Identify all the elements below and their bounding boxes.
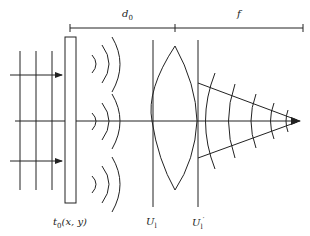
- object-transparency: [65, 37, 76, 203]
- lens-back-label: Ul′: [192, 217, 204, 231]
- dimension-label-f: f: [237, 9, 241, 19]
- lens-front-label: Ul: [146, 217, 157, 230]
- transparency-label: t0(x, y): [53, 217, 87, 230]
- dimension-line: [70, 24, 303, 32]
- optics-diagram: [0, 0, 310, 236]
- marginal-ray-top: [198, 83, 297, 120]
- diffracted-wavelets: [92, 37, 120, 212]
- thin-lens: [151, 46, 197, 190]
- marginal-ray-bottom: [198, 122, 297, 158]
- dimension-label-d0: d0: [122, 9, 133, 22]
